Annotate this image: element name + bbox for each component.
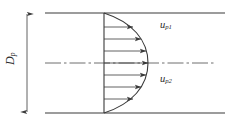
velocity-upper-subscript: p1 (165, 23, 172, 30)
velocity-profile-figure: Dp up1 up2 (0, 0, 225, 127)
diameter-label: Dp (4, 52, 17, 65)
diagram-canvas (0, 0, 225, 127)
velocity-arrow-group (104, 27, 148, 99)
velocity-label-upper: up1 (160, 20, 172, 31)
diameter-symbol: D (3, 56, 17, 65)
diameter-subscript: p (8, 52, 17, 56)
velocity-label-lower: up2 (160, 74, 172, 85)
velocity-lower-subscript: p2 (165, 77, 172, 84)
